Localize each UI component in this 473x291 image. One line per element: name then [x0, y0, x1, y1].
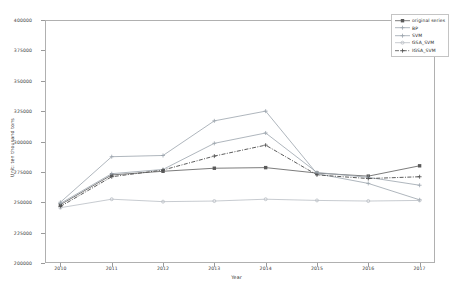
- legend-marker-icon: [394, 39, 411, 46]
- series-line: [60, 199, 419, 208]
- legend-label: original series: [411, 18, 445, 23]
- data-point-marker: [401, 26, 405, 30]
- data-point-marker: [418, 175, 422, 179]
- data-point-marker: [401, 33, 405, 37]
- x-axis-label: Year: [0, 275, 473, 280]
- data-point-marker: [264, 143, 268, 147]
- legend-item[interactable]: IGSA_SVM: [394, 47, 445, 54]
- series-line: [60, 166, 419, 205]
- legend-label: IGSA_SVM: [411, 48, 436, 53]
- data-point-marker: [212, 154, 216, 158]
- legend-label: BP: [411, 26, 418, 31]
- legend-item[interactable]: original series: [394, 17, 445, 24]
- legend-item[interactable]: SVM: [394, 32, 445, 39]
- chart-figure: 2000002250002500002750003000003250003500…: [0, 0, 473, 291]
- data-point-marker: [418, 183, 422, 187]
- legend-marker-icon: [394, 47, 411, 54]
- legend-marker-icon: [394, 32, 411, 39]
- series-gsa-svm: [59, 198, 421, 210]
- legend-marker-icon: [394, 17, 411, 24]
- data-point-marker: [264, 166, 267, 169]
- chart-legend: original seriesBPSVMGSA_SVMIGSA_SVM: [391, 14, 449, 57]
- legend-marker-icon: [394, 24, 411, 31]
- data-point-marker: [213, 167, 216, 170]
- legend-label: GSA_SVM: [411, 40, 434, 45]
- legend-label: SVM: [411, 33, 422, 38]
- legend-item[interactable]: GSA_SVM: [394, 39, 445, 46]
- data-point-marker: [418, 164, 421, 167]
- data-point-marker: [212, 141, 216, 145]
- legend-item[interactable]: BP: [394, 24, 445, 31]
- series-bp: [58, 109, 421, 204]
- data-point-marker: [366, 181, 370, 185]
- y-axis-label: Unit: ten thousand tons: [10, 104, 15, 192]
- data-point-marker: [401, 19, 404, 22]
- data-point-marker: [401, 48, 405, 52]
- series-line: [60, 111, 419, 202]
